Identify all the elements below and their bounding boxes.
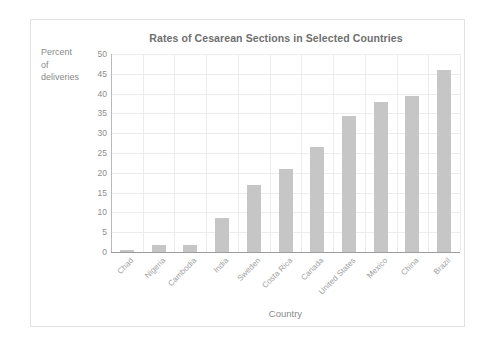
gridline-horizontal bbox=[111, 54, 460, 55]
gridline-horizontal bbox=[111, 94, 460, 95]
gridline-vertical bbox=[460, 54, 461, 252]
chart-figure-frame: Rates of Cesarean Sections in Selected C… bbox=[30, 19, 465, 327]
bar bbox=[405, 96, 419, 252]
gridline-vertical bbox=[174, 54, 175, 252]
bar bbox=[215, 218, 229, 252]
y-axis-line bbox=[111, 54, 112, 253]
y-axis-tick-label: 0 bbox=[85, 247, 107, 257]
y-axis-tick-label: 10 bbox=[85, 207, 107, 217]
bar bbox=[374, 102, 388, 252]
gridline-vertical bbox=[206, 54, 207, 252]
gridline-vertical bbox=[238, 54, 239, 252]
gridline-vertical bbox=[397, 54, 398, 252]
x-axis-tick-labels: ChadNigeriaCambodiaIndiaSwedenCosta Rica… bbox=[111, 256, 460, 316]
x-axis-line bbox=[111, 252, 460, 253]
x-axis-title: Country bbox=[111, 308, 460, 319]
gridline-vertical bbox=[365, 54, 366, 252]
bar bbox=[310, 147, 324, 252]
y-axis-tick-labels: 05101520253035404550 bbox=[81, 54, 107, 252]
gridline-vertical bbox=[270, 54, 271, 252]
chart-title: Rates of Cesarean Sections in Selected C… bbox=[116, 32, 436, 44]
gridline-horizontal bbox=[111, 74, 460, 75]
bar bbox=[437, 70, 451, 252]
y-axis-tick-label: 15 bbox=[85, 188, 107, 198]
y-axis-tick-label: 20 bbox=[85, 168, 107, 178]
y-axis-tick-label: 45 bbox=[85, 69, 107, 79]
y-axis-tick-label: 40 bbox=[85, 89, 107, 99]
y-axis-tick-label: 35 bbox=[85, 108, 107, 118]
bar bbox=[152, 245, 166, 252]
y-axis-tick-label: 30 bbox=[85, 128, 107, 138]
bar bbox=[247, 185, 261, 252]
bar bbox=[279, 169, 293, 252]
gridline-vertical bbox=[301, 54, 302, 252]
bar bbox=[183, 245, 197, 252]
gridline-vertical bbox=[428, 54, 429, 252]
gridline-vertical bbox=[143, 54, 144, 252]
y-axis-tick-label: 50 bbox=[85, 49, 107, 59]
plot-area bbox=[111, 54, 460, 252]
gridline-vertical bbox=[333, 54, 334, 252]
y-axis-tick-label: 5 bbox=[85, 227, 107, 237]
bar bbox=[342, 116, 356, 252]
y-axis-tick-label: 25 bbox=[85, 148, 107, 158]
